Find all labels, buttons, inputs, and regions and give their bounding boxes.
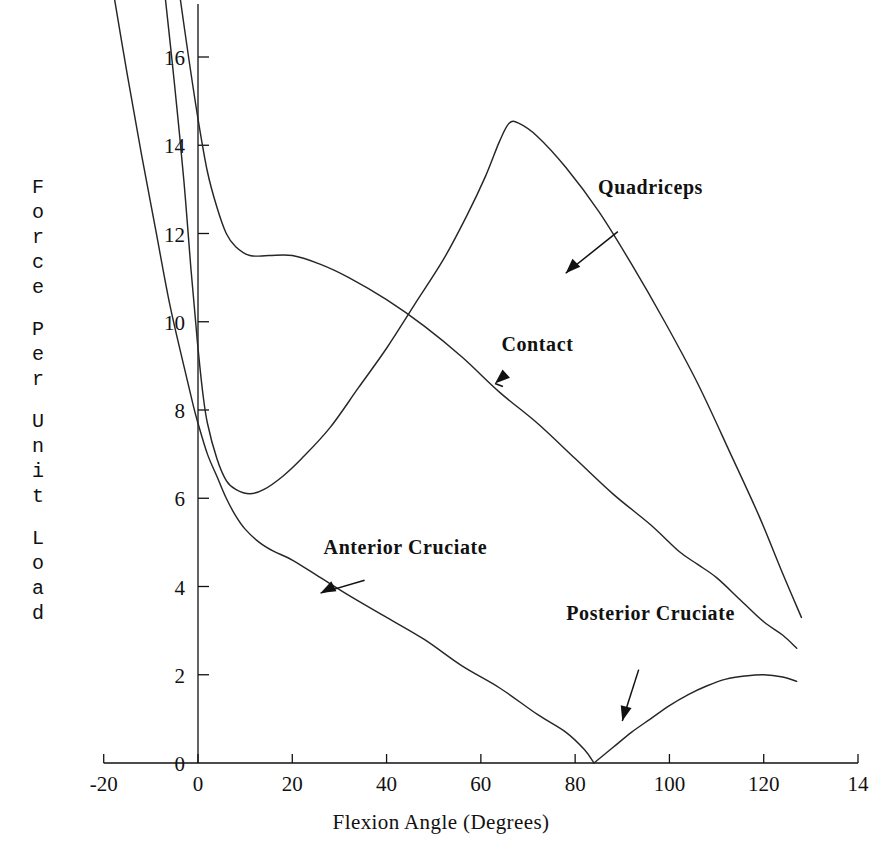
annotation-arrows [321, 232, 639, 721]
y-axis-title-char: e [32, 278, 44, 303]
y-axis-title-char: F [32, 178, 44, 203]
chart-canvas: -20020406080100120140246810121416 [0, 0, 882, 861]
y-axis-title-char: o [32, 554, 44, 579]
y-axis-title-char: a [32, 579, 44, 604]
y-axis-title-word: Load [32, 529, 44, 629]
y-tick-label: 12 [164, 223, 185, 247]
curve-posterior-cruciate [594, 675, 797, 763]
y-tick-label: 8 [175, 399, 186, 423]
x-tick-label: 100 [654, 772, 686, 796]
x-tick-label: -20 [90, 772, 118, 796]
annotation-posterior-cruciate: Posterior Cruciate [566, 602, 735, 625]
y-tick-label: 6 [175, 487, 186, 511]
y-tick-label: 2 [175, 664, 186, 688]
y-axis-title-word: Unit [32, 412, 44, 512]
axes: -20020406080100120140246810121416 [90, 4, 869, 796]
y-axis-title-char: c [32, 253, 44, 278]
y-tick-label: 0 [175, 752, 186, 776]
y-tick-label: 4 [175, 576, 186, 600]
annotation-arrowhead [621, 705, 632, 721]
chart-figure: -20020406080100120140246810121416 ForceP… [0, 0, 882, 861]
x-tick-label: 20 [282, 772, 303, 796]
curve-anterior-cruciate [113, 0, 594, 763]
y-axis-title-char: e [32, 345, 44, 370]
x-tick-label: 40 [376, 772, 397, 796]
curve-quadriceps [165, 0, 801, 617]
y-axis-title-char: U [32, 412, 44, 437]
annotation-leader-line [495, 384, 503, 387]
y-axis-title-char: t [32, 487, 44, 512]
y-axis-title-char: n [32, 437, 44, 462]
x-tick-label: 0 [193, 772, 204, 796]
y-axis-title-char: d [32, 604, 44, 629]
y-axis-title-char: L [32, 529, 44, 554]
annotation-quadriceps: Quadriceps [598, 176, 703, 199]
x-tick-label: 80 [565, 772, 586, 796]
y-axis-title-word: Per [32, 320, 44, 395]
y-axis-title-char: r [32, 228, 44, 253]
y-axis-title-word: Force [32, 178, 44, 303]
x-tick-label: 120 [748, 772, 780, 796]
x-tick-label: 14 [848, 772, 870, 796]
annotation-arrowhead [566, 259, 581, 274]
y-tick-label: 14 [164, 134, 186, 158]
y-axis-title: ForcePerUnitLoad [18, 178, 58, 629]
data-curves [113, 0, 801, 763]
x-axis-title: Flexion Angle (Degrees) [0, 810, 882, 835]
y-axis-title-char: r [32, 370, 44, 395]
annotation-contact: Contact [501, 333, 573, 356]
y-tick-label: 16 [164, 46, 185, 70]
annotation-arrowhead [495, 369, 510, 383]
annotation-anterior-cruciate: Anterior Cruciate [324, 536, 488, 559]
y-axis-title-char: o [32, 203, 44, 228]
y-axis-title-char: i [32, 462, 44, 487]
x-tick-label: 60 [470, 772, 491, 796]
y-axis-title-char: P [32, 320, 44, 345]
